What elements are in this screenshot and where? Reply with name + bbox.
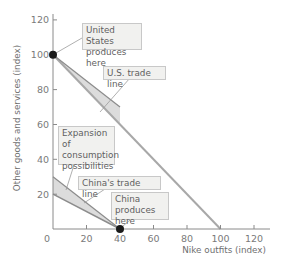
y-tick-label: 60 [37, 119, 49, 130]
callout-china-trade-line: China's trade line [78, 176, 161, 190]
y-tick-label: 40 [37, 154, 49, 165]
y-tick-label: 100 [31, 49, 49, 60]
x-tick-label: 60 [147, 233, 159, 244]
x-tick-label: 80 [181, 233, 193, 244]
x-ticks [87, 225, 255, 229]
x-axis-title: Nike outfits (index) [182, 245, 266, 255]
callout-expansion: Expansion of consumption possibilities [58, 126, 115, 165]
callout-us-produces: United States produces here [82, 23, 142, 50]
y-tick-label: 80 [37, 84, 49, 95]
us-production-point [49, 51, 57, 59]
x-tick-label: 40 [114, 233, 126, 244]
y-ticks [53, 20, 57, 194]
callout-us-trade-line: U.S. trade line [103, 66, 166, 80]
x-tick-label: 0 [44, 233, 50, 244]
y-tick-label: 20 [37, 189, 49, 200]
callout-china-produces: China produces here [111, 192, 169, 220]
x-tick-label: 20 [80, 233, 92, 244]
y-axis-title: Other goods and services (index) [12, 45, 22, 191]
x-tick-label: 100 [211, 233, 229, 244]
y-tick-label: 120 [31, 14, 49, 25]
x-tick-label: 120 [245, 233, 263, 244]
